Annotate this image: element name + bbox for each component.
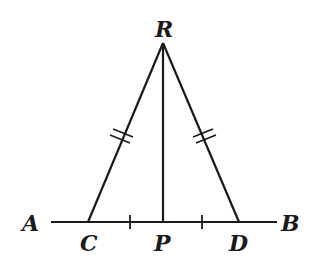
label-d: D [228, 230, 248, 256]
label-c: C [80, 230, 98, 256]
segment-rd [163, 43, 239, 222]
segment-rc [88, 43, 163, 222]
geometry-diagram: R A B C P D [0, 0, 312, 263]
label-a: A [20, 210, 39, 236]
label-p: P [153, 230, 172, 256]
label-r: R [154, 16, 173, 42]
label-b: B [280, 210, 300, 236]
